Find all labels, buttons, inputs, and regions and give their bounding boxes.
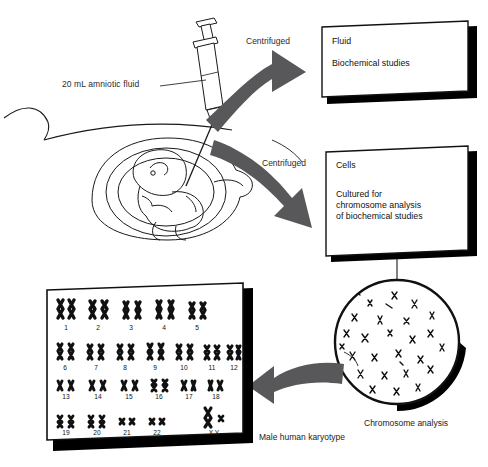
svg-text:11: 11 bbox=[209, 364, 216, 371]
svg-text:12: 12 bbox=[230, 364, 238, 371]
svg-text:19: 19 bbox=[62, 429, 70, 436]
svg-text:7: 7 bbox=[94, 364, 98, 371]
svg-text:1: 1 bbox=[64, 324, 68, 331]
svg-text:3: 3 bbox=[129, 324, 133, 331]
svg-text:6: 6 bbox=[63, 364, 67, 371]
figure-canvas: Fluid Biochemical studies Cells Cultured… bbox=[0, 0, 488, 467]
svg-text:14: 14 bbox=[94, 393, 102, 400]
centrifuged-label-bottom: Centrifuged bbox=[262, 158, 306, 168]
svg-text:4: 4 bbox=[162, 324, 166, 331]
svg-text:20: 20 bbox=[93, 429, 101, 436]
svg-text:18: 18 bbox=[212, 393, 220, 400]
amniotic-fluid-label: 20 mL amniotic fluid bbox=[62, 80, 139, 89]
svg-text:8: 8 bbox=[123, 364, 127, 371]
svg-text:9: 9 bbox=[153, 364, 157, 371]
svg-text:2: 2 bbox=[96, 324, 100, 331]
svg-text:16: 16 bbox=[155, 393, 163, 400]
svg-text:21: 21 bbox=[123, 429, 131, 436]
svg-text:10: 10 bbox=[180, 364, 188, 371]
karyotype-box: 1 2 3 4 5 6 7 8 9 10 11 12 13 14 15 16 1… bbox=[0, 0, 488, 467]
chromosome-analysis-label: Chromosome analysis bbox=[364, 418, 448, 428]
svg-text:X Y: X Y bbox=[209, 429, 220, 436]
svg-text:5: 5 bbox=[195, 324, 199, 331]
centrifuged-label-top: Centrifuged bbox=[246, 36, 290, 46]
svg-text:13: 13 bbox=[62, 393, 70, 400]
svg-text:15: 15 bbox=[125, 393, 133, 400]
karyotype-caption: Male human karyotype bbox=[259, 432, 345, 442]
svg-text:22: 22 bbox=[153, 429, 161, 436]
svg-text:17: 17 bbox=[185, 393, 193, 400]
